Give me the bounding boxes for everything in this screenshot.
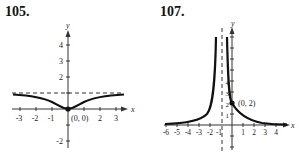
y-tick-label: 2 xyxy=(226,101,230,109)
y-tick-label: 2 xyxy=(59,73,63,82)
function-curve-right xyxy=(227,37,287,125)
graph-107: x y 4 3 2 1 xyxy=(163,19,295,152)
x-tick-label: 4 xyxy=(274,128,278,137)
x-tick-label: -1 xyxy=(48,114,55,123)
x-tick-label: -3 xyxy=(196,128,202,137)
graph-105: x y -3 -2 -1 2 3 xyxy=(12,21,135,148)
y-axis-label: y xyxy=(65,21,70,30)
x-tick-label: -4 xyxy=(185,128,191,137)
function-curve-left xyxy=(165,37,216,124)
y-axis-label: y xyxy=(230,19,235,28)
graphs: x y -3 -2 -1 2 3 xyxy=(0,0,299,152)
x-tick-label: 3 xyxy=(263,128,267,137)
point-marker xyxy=(229,100,234,105)
x-tick-label: 3 xyxy=(114,114,118,123)
y-axis-arrow-icon xyxy=(230,27,235,34)
x-tick-label: -2 xyxy=(207,128,213,137)
x-tick-label: -1 xyxy=(216,128,222,137)
y-tick-label: 4 xyxy=(59,41,63,50)
y-tick-label: 1 xyxy=(226,112,230,120)
y-tick-label: -2 xyxy=(56,137,63,146)
x-axis-arrow-icon xyxy=(121,107,128,112)
y-tick-label: 3 xyxy=(59,57,63,66)
x-tick-label: 2 xyxy=(252,128,256,137)
point-label: (0, 2) xyxy=(238,99,256,108)
x-tick-label: 2 xyxy=(98,114,102,123)
x-axis-label: x xyxy=(130,105,135,114)
y-axis-arrow-icon xyxy=(66,30,71,37)
point-label: (0, 0) xyxy=(71,114,89,123)
x-tick-label: -5 xyxy=(174,128,180,137)
x-tick-label: -2 xyxy=(32,114,39,123)
point-marker xyxy=(65,106,70,111)
x-tick-label: 1 xyxy=(241,128,245,137)
x-axis-label: x xyxy=(290,121,295,130)
x-tick-label: -6 xyxy=(163,128,169,137)
x-tick-label: -3 xyxy=(16,114,23,123)
